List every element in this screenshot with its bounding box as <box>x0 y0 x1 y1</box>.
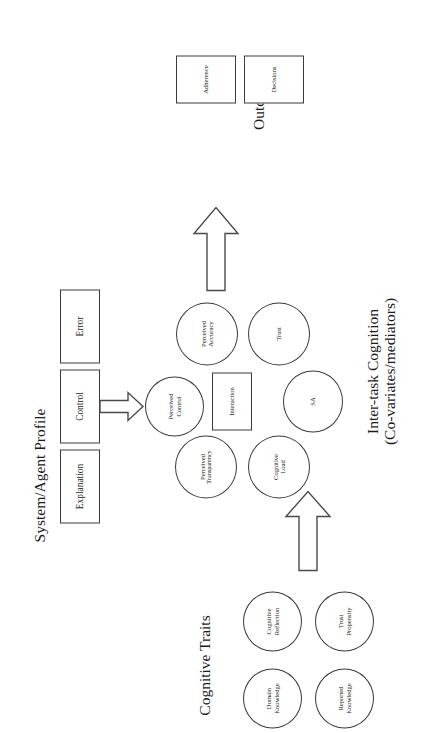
node-label: Cognitive Reflection <box>265 607 279 634</box>
node-interaction: Interaction <box>212 372 252 430</box>
node-label: Decisions <box>270 66 277 92</box>
node-error: Error <box>60 289 100 363</box>
group-label-cognitive-traits: Cognitive Traits <box>196 605 213 725</box>
node-label: Error <box>75 316 85 336</box>
node-perceived-control: Perceived Control <box>145 376 204 436</box>
node-label: Perceived Transparency <box>199 450 213 483</box>
node-label: Trust <box>275 327 282 341</box>
node-trust-propensity: Trust Propensity <box>315 591 374 651</box>
node-label: Perceived Control <box>167 393 181 419</box>
node-label: Perceived Accuracy <box>200 321 214 347</box>
diagram-canvas: Cognitive Traits Domain Knowledge Report… <box>0 0 426 733</box>
node-perceived-transparency: Perceived Transparency <box>175 435 237 498</box>
node-trust: Trust <box>248 302 310 365</box>
group-label-system-agent-profile: System/Agent Profile <box>31 385 48 565</box>
node-label: Domain Knowledge <box>265 683 279 713</box>
node-label: Reported Knowledge <box>337 683 351 713</box>
node-domain-knowledge: Domain Knowledge <box>243 668 302 728</box>
node-reported-knowledge: Reported Knowledge <box>315 668 374 728</box>
node-label: Explanation <box>75 463 85 508</box>
arrow-traits-to-cognition <box>282 490 334 570</box>
node-label: Cognitive Load <box>272 454 286 480</box>
node-cognitive-reflection: Cognitive Reflection <box>243 591 302 651</box>
node-label: Control <box>75 392 85 421</box>
group-label-inter-task-cognition: Inter-task Cognition (Co-variates/mediat… <box>364 271 399 471</box>
arrow-cognition-to-outcomes <box>190 206 242 290</box>
node-label: Adherence <box>202 65 209 94</box>
node-perceived-accuracy: Perceived Accuracy <box>176 302 238 365</box>
node-label: Trust Propensity <box>337 607 351 635</box>
node-cognitive-load: Cognitive Load <box>248 435 310 498</box>
node-explanation: Explanation <box>60 449 100 523</box>
node-sa: SA <box>283 370 343 432</box>
node-control: Control <box>60 369 100 443</box>
node-label: SA <box>309 397 316 405</box>
arrow-control-to-perceived-control <box>100 391 144 421</box>
node-label: Interaction <box>228 387 235 416</box>
node-decisions: Decisions <box>244 55 304 103</box>
node-adherence: Adherence <box>176 55 236 103</box>
